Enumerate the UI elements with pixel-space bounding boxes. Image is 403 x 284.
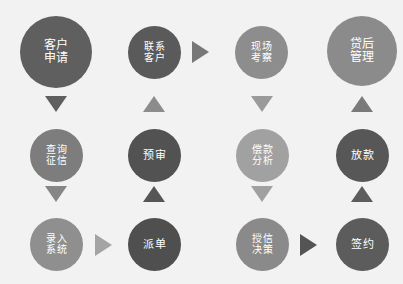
flowchart-canvas: 客户 申请 联系 客户 现场 考察 贷后 管理 查询 征信 预审 偿款 分析 放… xyxy=(0,0,403,284)
flow-node[interactable]: 查询 征信 xyxy=(30,129,83,182)
flow-node[interactable]: 录入 系统 xyxy=(30,218,83,271)
arrow-right-icon xyxy=(95,234,112,256)
flow-node-label: 录入 系统 xyxy=(46,234,67,256)
flow-node-label: 现场 考察 xyxy=(251,42,272,64)
flow-node[interactable]: 现场 考察 xyxy=(235,26,288,79)
flow-node-label: 预审 xyxy=(143,150,166,162)
arrow-up-icon xyxy=(143,96,165,112)
flow-node[interactable]: 联系 客户 xyxy=(128,26,181,79)
flow-node-label: 查询 征信 xyxy=(46,145,67,167)
flow-node-label: 签约 xyxy=(351,239,374,251)
arrow-up-icon xyxy=(351,186,373,202)
arrow-up-icon xyxy=(351,96,373,112)
flow-node-label: 放款 xyxy=(351,150,374,162)
flow-node[interactable]: 派单 xyxy=(128,218,181,271)
flow-node[interactable]: 放款 xyxy=(336,129,389,182)
flow-node-label: 客户 申请 xyxy=(44,39,69,65)
arrow-down-icon xyxy=(45,96,67,112)
arrow-right-icon xyxy=(192,41,209,63)
flow-node-label: 偿款 分析 xyxy=(252,145,273,167)
arrow-down-icon xyxy=(45,186,67,202)
flow-node-label: 贷后 管理 xyxy=(350,38,375,64)
arrow-up-icon xyxy=(143,186,165,202)
arrow-down-icon xyxy=(251,186,273,202)
flow-node-label: 授信 决策 xyxy=(252,234,273,256)
flow-node[interactable]: 客户 申请 xyxy=(20,16,92,88)
flow-node-label: 联系 客户 xyxy=(144,42,165,64)
flow-node[interactable]: 签约 xyxy=(336,218,389,271)
flow-node[interactable]: 偿款 分析 xyxy=(236,129,289,182)
flow-node[interactable]: 授信 决策 xyxy=(236,218,289,271)
flow-node-label: 派单 xyxy=(143,239,166,251)
flow-node[interactable]: 预审 xyxy=(128,129,181,182)
arrow-right-icon xyxy=(300,234,317,256)
flow-node[interactable]: 贷后 管理 xyxy=(327,16,397,86)
page-caption xyxy=(0,0,403,6)
arrow-down-icon xyxy=(251,96,273,112)
